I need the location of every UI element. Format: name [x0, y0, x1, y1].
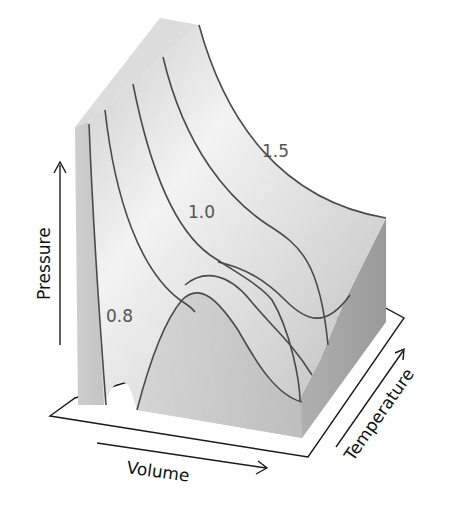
contour-label-0-8: 0.8 — [106, 306, 133, 326]
pressure-axis-label: Pressure — [34, 227, 54, 300]
volume-axis-label: Volume — [125, 457, 190, 486]
contour-label-1-5: 1.5 — [262, 141, 289, 161]
pvt-surface-diagram: 1.5 1.0 0.8 Pressure Volume Temperature — [0, 0, 461, 514]
contour-label-1-0: 1.0 — [188, 202, 215, 222]
temperature-axis-arrowhead-icon — [395, 349, 404, 360]
